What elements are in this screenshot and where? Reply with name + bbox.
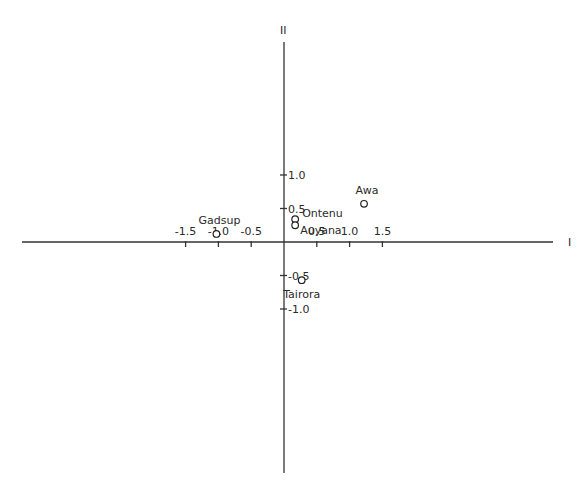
- circle-marker-icon: [292, 222, 299, 229]
- point-label: Auyana: [300, 224, 341, 237]
- point-label: Gadsup: [198, 214, 240, 227]
- circle-marker-icon: [298, 277, 305, 284]
- y-axis-label: II: [280, 24, 287, 37]
- x-tick-label: -0.5: [240, 225, 261, 238]
- data-point-awa: Awa: [356, 184, 379, 207]
- x-tick-label: 1.0: [341, 225, 359, 238]
- scatter-plot: -1.5-1.0-0.50.51.01.51.00.5-0.5-1.0 Gads…: [0, 0, 577, 492]
- x-tick-label: 1.5: [374, 225, 392, 238]
- circle-marker-icon: [361, 201, 368, 208]
- point-label: Awa: [356, 184, 379, 197]
- point-label: Ontenu: [302, 207, 343, 220]
- axes: [22, 42, 553, 473]
- data-point-auyana: Auyana: [292, 222, 342, 237]
- circle-marker-icon: [213, 231, 220, 238]
- x-axis-label: I: [568, 236, 571, 249]
- y-tick-label: 1.0: [288, 169, 306, 182]
- y-tick-label: -1.0: [288, 303, 309, 316]
- data-point-gadsup: Gadsup: [198, 214, 240, 237]
- x-tick-label: -1.5: [175, 225, 196, 238]
- point-label: Tairora: [282, 288, 320, 301]
